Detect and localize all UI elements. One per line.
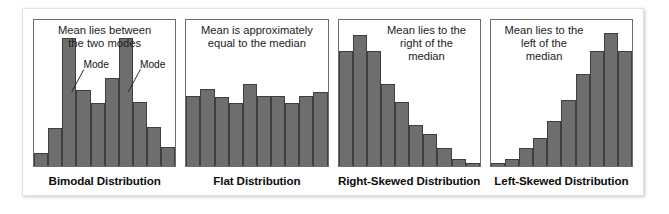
histogram-bar [353,35,367,166]
histogram-bar [299,96,313,166]
bars-left-skewed [491,20,632,166]
histogram-bar [505,159,519,166]
histogram-bar [339,51,353,166]
histogram-bar [452,159,466,166]
histogram-bar [271,96,285,166]
histogram-bar [519,148,533,166]
histogram-bar [466,163,480,166]
histogram-bar [243,84,257,166]
histogram-bar [161,147,175,166]
plot-left-skewed: Mean lies to the left of the median [490,19,633,167]
histogram-bar [604,33,618,166]
panel-title-right-skewed: Right-Skewed Distribution [338,167,481,187]
histogram-bar [48,128,62,166]
distribution-shapes-figure: Mean lies between the two modes Mode Mod… [22,8,644,196]
histogram-bar [409,125,423,166]
bars-bimodal [34,20,175,166]
panel-row: Mean lies between the two modes Mode Mod… [33,19,633,187]
histogram-bar [491,163,505,166]
histogram-bar [105,78,119,166]
histogram-bar [285,103,299,166]
histogram-bar [590,51,604,166]
histogram-bar [395,102,409,166]
histogram-bar [62,38,76,166]
histogram-bar [229,103,243,166]
histogram-bar [547,121,561,166]
histogram-bar [367,51,381,166]
histogram-bar [186,96,200,166]
panel-title-bimodal: Bimodal Distribution [33,167,176,187]
histogram-bar [133,102,147,166]
histogram-bar [76,90,90,166]
histogram-bar [437,148,451,166]
histogram-bar [257,96,271,166]
panel-bimodal: Mean lies between the two modes Mode Mod… [33,19,176,187]
histogram-bar [34,153,48,166]
panel-right-skewed: Mean lies to the right of the median Rig… [338,19,481,187]
histogram-bar [561,100,575,166]
histogram-bar [313,92,327,166]
panel-flat: Mean is approximately equal to the media… [185,19,328,187]
histogram-bar [200,89,214,166]
histogram-bar [215,97,229,166]
plot-right-skewed: Mean lies to the right of the median [338,19,481,167]
histogram-bar [381,84,395,166]
histogram-bar [147,127,161,166]
panel-title-left-skewed: Left-Skewed Distribution [490,167,633,187]
panel-title-flat: Flat Distribution [185,167,328,187]
histogram-bar [618,51,632,166]
plot-flat: Mean is approximately equal to the media… [185,19,328,167]
bars-flat [186,20,327,166]
histogram-bar [576,74,590,166]
bars-right-skewed [339,20,480,166]
histogram-bar [91,103,105,166]
histogram-bar [119,38,133,166]
plot-bimodal: Mean lies between the two modes Mode Mod… [33,19,176,167]
histogram-bar [533,138,547,166]
panel-left-skewed: Mean lies to the left of the median Left… [490,19,633,187]
histogram-bar [423,134,437,166]
